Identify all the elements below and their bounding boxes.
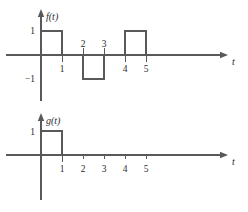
g-vertical-axis-label: g(t): [46, 115, 61, 127]
f-y-label-negative-one: −1: [25, 74, 35, 84]
g-signal-trace: [41, 131, 226, 155]
f-vertical-axis-arrowhead: [38, 9, 44, 17]
f-tick-label-4: 4: [123, 64, 128, 74]
figure-container: f(t) t 1 −1 1 2 3 4 5: [0, 0, 248, 212]
g-tick-label-2: 2: [81, 164, 86, 174]
f-tick-label-3: 3: [102, 39, 107, 49]
chart-g: g(t) t 1 1 2 3 4 5: [6, 113, 235, 200]
g-tick-label-3: 3: [102, 164, 107, 174]
g-vertical-axis-arrowhead: [38, 113, 44, 121]
chart-f: f(t) t 1 −1 1 2 3 4 5: [6, 9, 235, 101]
plot-canvas: f(t) t 1 −1 1 2 3 4 5: [0, 0, 248, 212]
f-tick-label-1: 1: [60, 64, 65, 74]
g-tick-label-5: 5: [144, 164, 149, 174]
g-horizontal-axis-label: t: [232, 156, 235, 167]
f-horizontal-axis-label: t: [232, 56, 235, 67]
g-tick-label-1: 1: [60, 164, 65, 174]
g-y-label-positive-one: 1: [30, 127, 35, 137]
f-tick-label-5: 5: [144, 64, 149, 74]
f-vertical-axis-label: f(t): [46, 11, 59, 23]
f-tick-label-2: 2: [81, 39, 86, 49]
g-tick-label-4: 4: [123, 164, 128, 174]
f-y-label-positive-one: 1: [30, 26, 35, 36]
